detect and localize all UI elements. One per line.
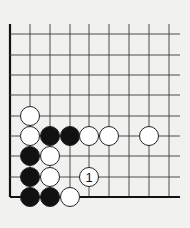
- black-stone: [41, 188, 60, 207]
- go-board: 1: [0, 0, 190, 228]
- white-stone: [140, 127, 159, 146]
- black-stone: [41, 127, 60, 146]
- white-stone: [41, 168, 60, 187]
- white-stone: [21, 107, 40, 126]
- stones-layer: 1: [21, 107, 159, 207]
- white-stone: [41, 147, 60, 166]
- white-stone: [61, 188, 80, 207]
- black-stone: [21, 188, 40, 207]
- white-stone: [80, 127, 99, 146]
- black-stone: [21, 168, 40, 187]
- move-number-label: 1: [85, 170, 92, 185]
- black-stone: [21, 147, 40, 166]
- white-stone: [100, 127, 119, 146]
- white-stone: [21, 127, 40, 146]
- black-stone: [61, 127, 80, 146]
